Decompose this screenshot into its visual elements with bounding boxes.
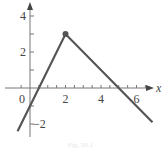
y-axis-arrow-icon <box>27 2 33 10</box>
line-chart: 0246 −224 x Fig. 20.1 <box>0 0 163 150</box>
x-tick-label: 0 <box>19 92 25 106</box>
filled-point-marker <box>63 31 69 37</box>
figure-caption: Fig. 20.1 <box>68 141 94 149</box>
y-ticks <box>30 16 34 124</box>
x-axis-label: x <box>155 81 162 95</box>
x-tick-label: 2 <box>63 92 69 106</box>
x-tick-label: 4 <box>98 92 104 106</box>
y-tick-label: 4 <box>20 9 26 23</box>
y-tick-label: 2 <box>20 45 26 59</box>
x-axis-arrow-icon <box>146 85 154 91</box>
y-tick-label: −2 <box>33 117 46 131</box>
